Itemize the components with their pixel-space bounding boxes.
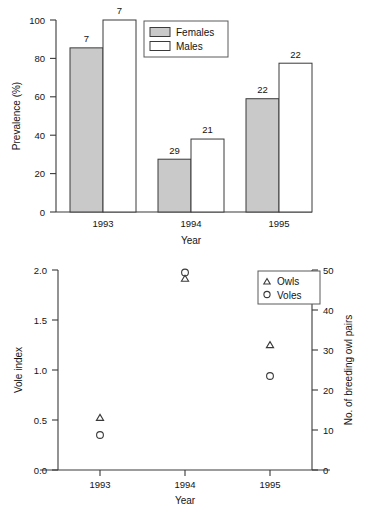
bar-label-1995-females: 22 xyxy=(257,84,268,95)
legend-swatch-females xyxy=(150,28,170,37)
scatter-point-owls-1994 xyxy=(181,275,188,281)
scatter-right-ytick-30: 30 xyxy=(323,345,334,356)
scatter-xtick-1994: 1994 xyxy=(174,479,195,490)
bar-y-axis-title: Prevalence (%) xyxy=(11,82,22,150)
scatter-ytick-0-5: 0.5 xyxy=(34,415,47,426)
scatter-left-y-axis-title: Vole index xyxy=(13,347,24,393)
bar-ytick-80: 80 xyxy=(34,53,45,64)
bar-1993-females xyxy=(70,48,103,212)
scatter-point-voles-1995 xyxy=(267,373,274,380)
scatter-right-ytick-20: 20 xyxy=(323,385,334,396)
scatter-xtick-1993: 1993 xyxy=(89,479,110,490)
scatter-left-y-ticks: 0.0 0.5 1.0 1.5 2.0 xyxy=(34,265,58,476)
bar-ytick-20: 20 xyxy=(34,168,45,179)
scatter-point-voles-1993 xyxy=(97,432,104,439)
bar-1995-females xyxy=(246,99,279,212)
figure-container: 0 20 40 60 80 100 Prevalence (%) 7 7 29 … xyxy=(0,0,368,513)
legend-label-females: Females xyxy=(176,27,214,38)
bar-1993-males xyxy=(103,20,136,212)
bar-xtick-1993: 1993 xyxy=(92,218,113,229)
scatter-chart-svg: 0.0 0.5 1.0 1.5 2.0 0 10 20 30 40 50 xyxy=(0,252,368,513)
bar-1995-males xyxy=(279,63,312,212)
bar-xtick-1994: 1994 xyxy=(180,218,201,229)
scatter-right-ytick-40: 40 xyxy=(323,305,334,316)
bar-x-axis-title: Year xyxy=(181,235,202,246)
scatter-ytick-1-0: 1.0 xyxy=(34,365,47,376)
scatter-xtick-1995: 1995 xyxy=(259,479,280,490)
legend-swatch-males xyxy=(150,42,170,51)
scatter-right-ytick-0: 0 xyxy=(323,465,328,476)
scatter-chart-panel: 0.0 0.5 1.0 1.5 2.0 0 10 20 30 40 50 xyxy=(0,252,368,513)
bar-label-1994-males: 21 xyxy=(202,124,213,135)
bar-label-1995-males: 22 xyxy=(290,49,301,60)
bar-label-1993-males: 7 xyxy=(117,5,122,16)
scatter-x-ticks: 1993 1994 1995 xyxy=(89,470,280,490)
bar-1994-females xyxy=(158,159,191,212)
bar-1994-males xyxy=(191,139,224,212)
bar-chart-panel: 0 20 40 60 80 100 Prevalence (%) 7 7 29 … xyxy=(0,0,368,252)
bar-ytick-60: 60 xyxy=(34,91,45,102)
scatter-point-owls-1993 xyxy=(96,414,103,420)
scatter-right-ytick-50: 50 xyxy=(323,265,334,276)
scatter-point-owls-1995 xyxy=(266,342,273,348)
bar-chart-svg: 0 20 40 60 80 100 Prevalence (%) 7 7 29 … xyxy=(0,0,368,252)
scatter-ytick-2-0: 2.0 xyxy=(34,265,47,276)
bar-label-1993-females: 7 xyxy=(84,33,89,44)
legend-label-males: Males xyxy=(176,41,203,52)
bar-chart-legend: Females Males xyxy=(144,21,228,57)
bar-xtick-1995: 1995 xyxy=(268,218,289,229)
scatter-chart-legend: Owls Voles xyxy=(258,271,320,304)
scatter-right-ytick-10: 10 xyxy=(323,425,334,436)
scatter-right-y-axis-title: No. of breeding owl pairs xyxy=(343,315,354,426)
legend-label-voles: Voles xyxy=(277,290,301,301)
scatter-ytick-1-5: 1.5 xyxy=(34,315,47,326)
scatter-ytick-0-0: 0.0 xyxy=(34,465,47,476)
scatter-x-axis-title: Year xyxy=(175,495,196,506)
bar-y-ticks: 0 20 40 60 80 100 xyxy=(29,15,56,218)
bar-ytick-40: 40 xyxy=(34,130,45,141)
bar-ytick-0: 0 xyxy=(40,207,45,218)
bar-ytick-100: 100 xyxy=(29,15,45,26)
legend-label-owls: Owls xyxy=(277,276,299,287)
bar-label-1994-females: 29 xyxy=(169,145,180,156)
